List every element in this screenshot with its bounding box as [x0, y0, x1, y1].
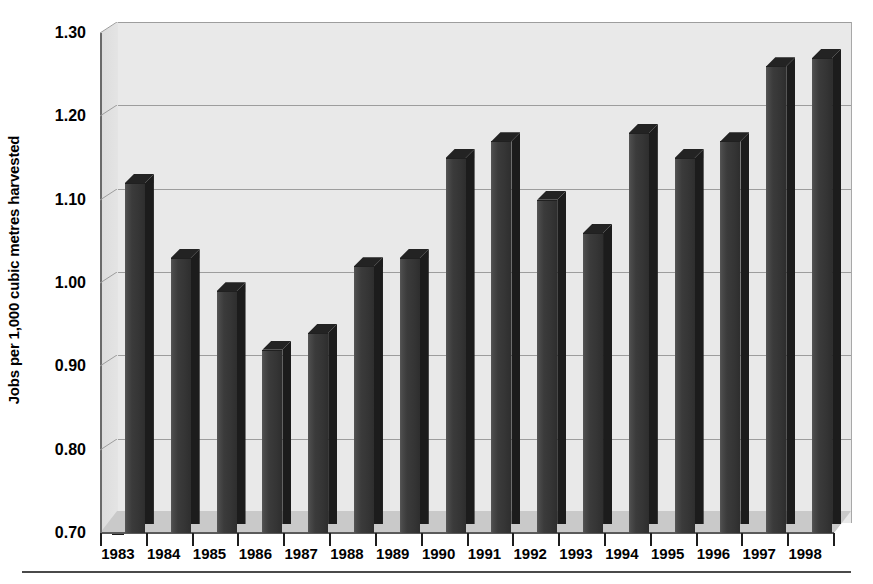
- y-axis-tick-label: 1.10: [24, 192, 86, 208]
- bar-column: [812, 49, 832, 533]
- bar-side-face: [649, 124, 658, 524]
- bar-column: [217, 282, 237, 533]
- bar-side-face: [328, 324, 337, 524]
- bar-side-face: [603, 224, 612, 524]
- x-axis-tick-label: 1998: [779, 546, 831, 561]
- bar-side-face: [557, 191, 566, 524]
- bar-front-face: [675, 158, 695, 533]
- bar-column: [583, 224, 603, 533]
- bar-side-face: [191, 249, 200, 524]
- bar-column: [125, 174, 145, 533]
- gridline: [118, 105, 851, 106]
- y-axis-tick-label: 0.80: [24, 442, 86, 458]
- bar-side-face: [695, 149, 704, 524]
- x-axis-tick-mark: [833, 533, 835, 546]
- x-axis-tick-label: 1996: [687, 546, 739, 561]
- x-axis-tick-label: 1989: [367, 546, 419, 561]
- bar-front-face: [629, 133, 649, 533]
- bar-front-face: [125, 183, 145, 533]
- bar-side-face: [420, 249, 429, 524]
- x-axis-tick-label: 1988: [321, 546, 373, 561]
- x-axis-tick-label: 1991: [458, 546, 510, 561]
- x-axis-tick-label: 1985: [184, 546, 236, 561]
- bar-side-face: [832, 49, 841, 524]
- y-axis-tick-label: 1.00: [24, 275, 86, 291]
- y-axis-spine: [100, 33, 102, 533]
- bar-front-face: [262, 350, 282, 533]
- y-axis-tick-labels: 1.301.201.101.000.900.800.70: [24, 0, 86, 584]
- bar-column: [308, 324, 328, 533]
- gridline: [118, 22, 851, 23]
- plot-left-wall: [100, 22, 118, 544]
- bar-front-face: [537, 200, 557, 533]
- bar-column: [446, 149, 466, 533]
- bar-column: [491, 132, 511, 533]
- bar-side-face: [466, 149, 475, 524]
- bar-front-face: [720, 141, 740, 533]
- bar-front-face: [308, 333, 328, 533]
- bar-front-face: [766, 66, 786, 533]
- bar-side-face: [740, 132, 749, 524]
- bar-front-face: [583, 233, 603, 533]
- bar-front-face: [354, 266, 374, 533]
- bar-side-face: [145, 174, 154, 524]
- bar-side-face: [282, 341, 291, 524]
- bar-front-face: [400, 258, 420, 533]
- plot-area: [100, 22, 850, 533]
- x-axis-tick-label: 1983: [92, 546, 144, 561]
- bar-column: [675, 149, 695, 533]
- bar-front-face: [491, 141, 511, 533]
- y-axis-tick-label: 1.30: [24, 25, 86, 41]
- bar-side-face: [374, 257, 383, 524]
- y-axis-tick-label: 0.90: [24, 358, 86, 374]
- bar-front-face: [812, 58, 832, 533]
- y-axis-tick-label: 0.70: [24, 525, 86, 541]
- x-axis-tick-label: 1993: [550, 546, 602, 561]
- bar-side-face: [237, 282, 246, 524]
- bottom-divider: [22, 571, 851, 573]
- x-axis-tick-label: 1997: [733, 546, 785, 561]
- bar-front-face: [446, 158, 466, 533]
- bar-side-face: [786, 57, 795, 524]
- x-axis-tick-label: 1986: [229, 546, 281, 561]
- bar-front-face: [217, 291, 237, 533]
- bar-column: [720, 132, 740, 533]
- bar-column: [537, 191, 557, 533]
- x-axis-tick-label: 1994: [596, 546, 648, 561]
- x-axis-tick-label: 1992: [504, 546, 556, 561]
- bar-column: [400, 249, 420, 533]
- chart-figure: Jobs per 1,000 cubic metres harvested 1.…: [0, 0, 873, 584]
- y-axis-title-container: Jobs per 1,000 cubic metres harvested: [0, 0, 26, 540]
- bar-column: [629, 124, 649, 533]
- bar-column: [766, 57, 786, 533]
- y-axis-title: Jobs per 1,000 cubic metres harvested: [5, 136, 22, 405]
- y-axis-tick-label: 1.20: [24, 108, 86, 124]
- bar-column: [354, 257, 374, 533]
- bar-front-face: [171, 258, 191, 533]
- bar-column: [262, 341, 282, 533]
- bar-side-face: [511, 132, 520, 524]
- x-axis-tick-label: 1987: [275, 546, 327, 561]
- x-axis-tick-label: 1990: [413, 546, 465, 561]
- bar-column: [171, 249, 191, 533]
- x-axis-tick-label: 1995: [642, 546, 694, 561]
- x-axis-tick-label: 1984: [138, 546, 190, 561]
